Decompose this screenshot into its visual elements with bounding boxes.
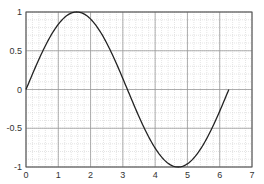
x-tick-label: 7: [249, 170, 254, 180]
x-tick-label: 5: [185, 170, 190, 180]
y-tick-label: -1: [14, 162, 22, 172]
x-tick-label: 3: [120, 170, 125, 180]
x-tick-label: 4: [153, 170, 158, 180]
x-tick-label: 2: [88, 170, 93, 180]
y-tick-label: 0.5: [9, 46, 22, 56]
y-tick-label: -0.5: [6, 123, 22, 133]
x-axis-ticks: 01234567: [23, 170, 254, 180]
x-tick-label: 0: [23, 170, 28, 180]
y-tick-label: 0: [17, 85, 22, 95]
x-tick-label: 1: [56, 170, 61, 180]
y-axis-ticks: 10.50-0.5-1: [6, 7, 22, 172]
x-tick-label: 6: [217, 170, 222, 180]
y-tick-label: 1: [17, 7, 22, 17]
sine-chart: 01234567 10.50-0.5-1: [0, 0, 264, 184]
